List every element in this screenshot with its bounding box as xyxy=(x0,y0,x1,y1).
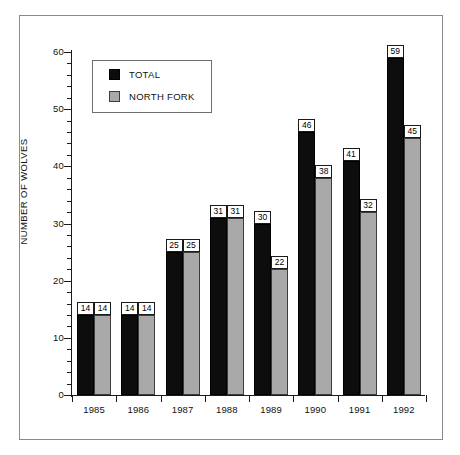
y-tick-minor xyxy=(67,63,72,64)
y-tick-minor xyxy=(67,75,72,76)
x-tick xyxy=(72,395,73,402)
y-tick-label: 60 xyxy=(30,46,64,58)
bar-total-1985 xyxy=(77,315,94,395)
y-tick-minor xyxy=(67,269,72,270)
y-tick-minor xyxy=(67,361,72,362)
y-tick-major xyxy=(64,281,72,282)
y-tick-major xyxy=(64,338,72,339)
y-tick-label-text: 0 xyxy=(36,389,64,400)
y-tick-major xyxy=(64,395,72,396)
y-tick-minor xyxy=(67,212,72,213)
y-tick-label-text: 10 xyxy=(36,332,64,343)
y-tick-major xyxy=(64,52,72,53)
y-tick-minor xyxy=(67,201,72,202)
y-tick-minor xyxy=(67,384,72,385)
y-tick-minor xyxy=(67,178,72,179)
x-tick-label-1990: 1990 xyxy=(293,404,337,415)
bar-north-fork-1989 xyxy=(271,269,288,395)
bar-north-fork-1986 xyxy=(138,315,155,395)
y-tick-major xyxy=(64,224,72,225)
value-label-north-fork-1992: 45 xyxy=(404,125,421,138)
bar-north-fork-1987 xyxy=(183,252,200,395)
y-tick-label: 30 xyxy=(30,218,64,230)
y-tick-minor xyxy=(67,349,72,350)
value-label-north-fork-1987: 25 xyxy=(183,239,200,252)
y-tick-minor xyxy=(67,246,72,247)
legend-swatch-north-fork-icon xyxy=(109,91,120,102)
y-axis-title: NUMBER OF WOLVES xyxy=(18,132,29,252)
y-tick-label: 10 xyxy=(30,332,64,344)
y-tick-minor xyxy=(67,86,72,87)
x-tick xyxy=(293,395,294,402)
bar-total-1987 xyxy=(166,252,183,395)
value-label-total-1985: 14 xyxy=(77,302,94,315)
value-label-total-1990: 46 xyxy=(298,119,315,132)
value-label-total-1986: 14 xyxy=(121,302,138,315)
wolf-population-bar-chart: NUMBER OF WOLVES 0102030405060 198519861… xyxy=(0,0,460,455)
y-tick-minor xyxy=(67,132,72,133)
x-tick-label-1985: 1985 xyxy=(72,404,116,415)
value-label-total-1988: 31 xyxy=(210,205,227,218)
legend-entry-total: TOTAL xyxy=(109,69,160,80)
y-tick-minor xyxy=(67,292,72,293)
y-tick-label-text: 60 xyxy=(36,46,64,57)
bar-total-1986 xyxy=(121,315,138,395)
y-tick-minor xyxy=(67,372,72,373)
bar-total-1991 xyxy=(343,161,360,395)
y-tick-label-text: 50 xyxy=(36,103,64,114)
x-tick-label-1989: 1989 xyxy=(249,404,293,415)
y-tick-minor xyxy=(67,189,72,190)
value-label-total-1992: 59 xyxy=(387,45,404,58)
bar-total-1990 xyxy=(298,132,315,395)
y-tick-minor xyxy=(67,258,72,259)
value-label-north-fork-1986: 14 xyxy=(138,302,155,315)
x-tick xyxy=(338,395,339,402)
value-label-north-fork-1985: 14 xyxy=(94,302,111,315)
y-tick-major xyxy=(64,166,72,167)
x-tick xyxy=(382,395,383,402)
bar-north-fork-1991 xyxy=(360,212,377,395)
value-label-north-fork-1988: 31 xyxy=(227,205,244,218)
bar-total-1988 xyxy=(210,218,227,395)
x-tick xyxy=(249,395,250,402)
y-tick-major xyxy=(64,109,72,110)
value-label-north-fork-1991: 32 xyxy=(360,199,377,212)
bar-north-fork-1992 xyxy=(404,138,421,395)
x-tick xyxy=(116,395,117,402)
x-tick xyxy=(426,395,427,402)
legend-swatch-total-icon xyxy=(109,69,120,80)
legend-label-total: TOTAL xyxy=(129,69,160,80)
x-tick-label-1988: 1988 xyxy=(205,404,249,415)
y-tick-minor xyxy=(67,98,72,99)
y-tick-minor xyxy=(67,155,72,156)
y-tick-label-text: 30 xyxy=(36,218,64,229)
x-tick xyxy=(205,395,206,402)
y-tick-label-text: 20 xyxy=(36,275,64,286)
x-axis-line xyxy=(71,395,425,396)
y-tick-label: 0 xyxy=(30,389,64,401)
chart-legend: TOTAL NORTH FORK xyxy=(92,60,212,113)
value-label-total-1989: 30 xyxy=(254,211,271,224)
y-tick-minor xyxy=(67,121,72,122)
value-label-total-1987: 25 xyxy=(166,239,183,252)
y-tick-label: 40 xyxy=(30,160,64,172)
value-label-north-fork-1990: 38 xyxy=(315,165,332,178)
bar-total-1989 xyxy=(254,224,271,396)
bar-total-1992 xyxy=(387,58,404,395)
y-tick-label: 50 xyxy=(30,103,64,115)
legend-label-north-fork: NORTH FORK xyxy=(129,91,195,102)
bar-north-fork-1990 xyxy=(315,178,332,395)
y-tick-minor xyxy=(67,304,72,305)
y-tick-label-text: 40 xyxy=(36,160,64,171)
y-tick-minor xyxy=(67,143,72,144)
x-tick xyxy=(161,395,162,402)
x-tick-label-1992: 1992 xyxy=(382,404,426,415)
x-tick-label-1991: 1991 xyxy=(338,404,382,415)
value-label-north-fork-1989: 22 xyxy=(271,256,288,269)
x-tick-label-1987: 1987 xyxy=(161,404,205,415)
y-tick-label: 20 xyxy=(30,275,64,287)
legend-entry-north-fork: NORTH FORK xyxy=(109,91,195,102)
bar-north-fork-1985 xyxy=(94,315,111,395)
y-tick-minor xyxy=(67,326,72,327)
value-label-total-1991: 41 xyxy=(343,148,360,161)
